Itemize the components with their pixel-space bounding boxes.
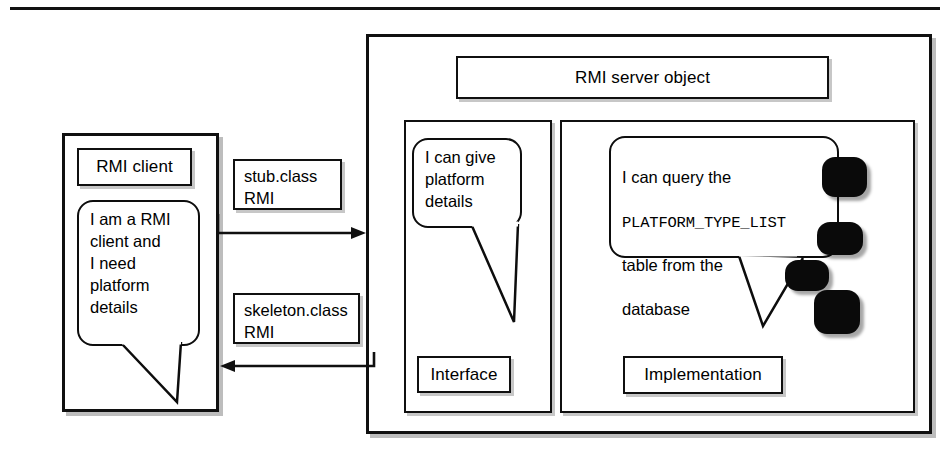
implementation-bubble-line-4: database xyxy=(622,300,690,318)
database-blob-2 xyxy=(817,222,863,255)
rmi-client-label: RMI client xyxy=(96,157,173,177)
client-bubble: I am a RMI client and I need platform de… xyxy=(77,200,200,346)
database-blob-4 xyxy=(814,290,860,334)
rmi-server-object-label: RMI server object xyxy=(575,68,710,88)
stub-class-note-box: stub.class RMI xyxy=(233,159,342,210)
interface-bubble: I can give platform details xyxy=(412,138,522,228)
implementation-bubble-line-3: table from the xyxy=(622,256,723,274)
rmi-client-label-box: RMI client xyxy=(77,148,192,186)
client-bubble-tail-icon xyxy=(120,340,210,406)
skeleton-arrow-left-icon xyxy=(214,344,374,378)
interface-label-box: Interface xyxy=(417,356,511,393)
skeleton-class-note-box: skeleton.class RMI xyxy=(233,293,360,344)
horizontal-rule xyxy=(10,7,940,10)
implementation-bubble: I can query the PLATFORM_TYPE_LIST table… xyxy=(609,136,839,258)
diagram-canvas: RMI client I am a RMI client and I need … xyxy=(0,0,947,465)
database-blob-1 xyxy=(822,157,867,197)
implementation-bubble-line-1: I can query the xyxy=(622,168,731,186)
implementation-label: Implementation xyxy=(644,365,762,385)
interface-label: Interface xyxy=(430,365,497,385)
implementation-bubble-table-name: PLATFORM_TYPE_LIST xyxy=(622,214,786,232)
interface-bubble-tail-icon xyxy=(470,222,540,326)
database-blob-3 xyxy=(785,260,829,291)
rmi-server-object-label-box: RMI server object xyxy=(456,56,829,99)
stub-arrow-right-icon xyxy=(214,210,374,244)
implementation-label-box: Implementation xyxy=(623,356,783,394)
